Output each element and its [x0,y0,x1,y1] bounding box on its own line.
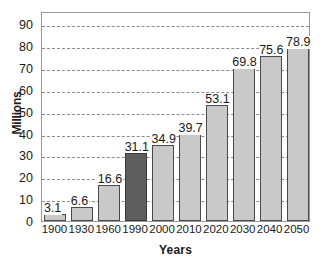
y-axis-tick-label: 90 [0,19,33,32]
bar [98,185,120,221]
bar-value-label: 31.1 [124,141,149,154]
y-axis-tick-label: 30 [0,150,33,163]
y-axis-tick-label: 0 [0,216,33,229]
y-axis-tick-label: 10 [0,194,33,207]
bar-value-label: 6.6 [70,195,88,208]
bar [71,207,93,221]
y-axis-tick-label: 20 [0,172,33,185]
bar-value-label: 16.6 [97,173,122,186]
bar-chart: Millions 0102030405060708090 3.16.616.63… [0,0,325,265]
x-axis-tick-label: 1990 [122,224,149,236]
x-axis-tick-label: 2000 [149,224,176,236]
y-axis-tick-label: 40 [0,128,33,141]
bar [260,56,282,221]
y-axis-tick-label: 70 [0,63,33,76]
bar-value-label: 53.1 [205,93,230,106]
bar [233,68,255,221]
x-axis-tick-label: 2040 [256,224,283,236]
bar [179,134,201,221]
plot-area: 3.16.616.631.134.939.753.169.875.678.9 [41,12,310,222]
bar-value-label: 3.1 [43,202,61,215]
y-axis-tick-label: 80 [0,41,33,54]
x-axis-tick-label: 2010 [176,224,203,236]
x-axis-tick-label: 1900 [41,224,68,236]
x-axis-title: Years [41,243,310,257]
bars-layer: 3.16.616.631.134.939.753.169.875.678.9 [42,13,309,221]
bar-value-label: 34.9 [151,133,176,146]
x-axis-tick-labels: 1900193019601990200020102020203020402050 [41,224,310,242]
bar [287,48,309,221]
bar [206,105,228,221]
bar-value-label: 78.9 [286,36,311,49]
x-axis-tick-label: 2050 [283,224,310,236]
y-axis-tick-label: 50 [0,106,33,119]
y-axis-tick-label: 60 [0,85,33,98]
x-axis-tick-label: 2030 [229,224,256,236]
bar [125,153,147,221]
x-axis-tick-label: 1960 [95,224,122,236]
x-axis-tick-label: 1930 [68,224,95,236]
bar [44,214,66,221]
bar-value-label: 69.8 [232,56,257,69]
bar-value-label: 39.7 [178,122,203,135]
bar [152,145,174,221]
y-axis-tick-labels: 0102030405060708090 [0,12,38,222]
bar-value-label: 75.6 [259,44,284,57]
x-axis-tick-label: 2020 [202,224,229,236]
